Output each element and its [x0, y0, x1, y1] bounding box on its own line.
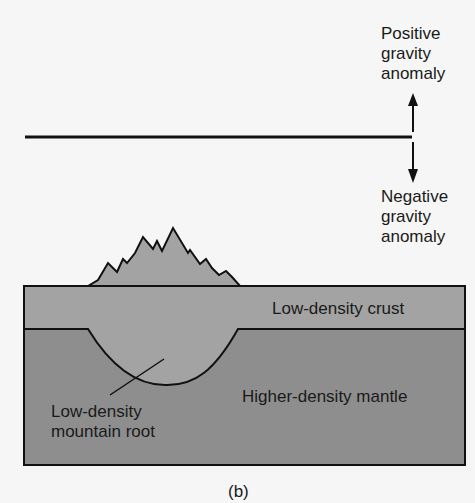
positive-anomaly-label: Positive gravity anomaly [381, 24, 445, 84]
crust-label: Low-density crust [272, 299, 404, 319]
down-arrow-icon [408, 142, 418, 183]
panel-label: (b) [228, 482, 249, 502]
root-label: Low-density mountain root [51, 402, 155, 442]
negative-anomaly-label: Negative gravity anomaly [381, 187, 448, 247]
up-arrow-icon [408, 93, 418, 132]
mantle-label: Higher-density mantle [242, 387, 407, 407]
